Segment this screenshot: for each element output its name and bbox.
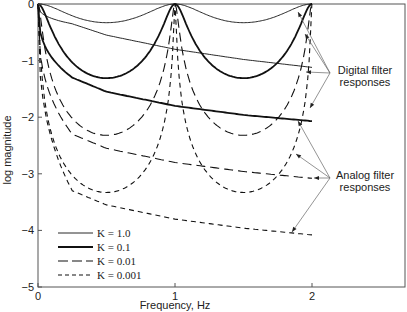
x-tick-label: 2 — [309, 290, 315, 302]
arrowhead-icon — [314, 176, 319, 180]
legend: K = 1.0K = 0.1K = 0.01K = 0.001 — [58, 227, 141, 281]
annotation-label: Analog filter — [336, 169, 394, 181]
y-axis-label: log magnitude — [1, 115, 13, 184]
annotation-arrow — [292, 178, 330, 232]
arrowhead-icon — [298, 12, 302, 17]
y-tick-label: −4 — [21, 224, 34, 236]
legend-label: K = 0.001 — [97, 269, 141, 281]
curve-digital — [38, 4, 312, 78]
arrowhead-icon — [296, 154, 301, 159]
annotation-label: Digital filter — [338, 64, 393, 76]
y-tick-label: −5 — [21, 281, 34, 293]
y-tick-label: −3 — [21, 168, 34, 180]
curves — [38, 4, 312, 235]
curve-analog — [38, 4, 312, 178]
legend-label: K = 1.0 — [97, 227, 131, 239]
annotations: Digital filterresponsesAnalog filterresp… — [292, 12, 394, 232]
x-tick-label: 0 — [35, 290, 41, 302]
y-tick-label: 0 — [28, 0, 34, 10]
x-axis-label: Frequency, Hz — [140, 299, 211, 311]
legend-label: K = 0.1 — [97, 241, 130, 253]
annotation-label: responses — [340, 181, 391, 193]
axis-ticks: 0−1−2−3−4−5012 — [21, 0, 315, 302]
annotation-arrow — [296, 154, 330, 178]
y-tick-label: −2 — [21, 111, 34, 123]
plot-frame — [38, 4, 405, 287]
annotation-arrow — [310, 73, 330, 108]
arrowhead-icon — [292, 227, 297, 232]
arrowhead-icon — [310, 103, 314, 108]
curve-digital — [38, 4, 312, 135]
legend-label: K = 0.01 — [97, 255, 136, 267]
curve-digital — [38, 4, 312, 193]
chart: 0−1−2−3−4−5012 K = 1.0K = 0.1K = 0.01K =… — [0, 0, 407, 312]
curve-analog — [38, 4, 312, 235]
plot-border — [38, 4, 405, 287]
annotation-arrow — [298, 12, 330, 73]
annotation-arrow — [298, 121, 330, 178]
annotation-label: responses — [340, 76, 391, 88]
y-tick-label: −1 — [21, 55, 34, 67]
